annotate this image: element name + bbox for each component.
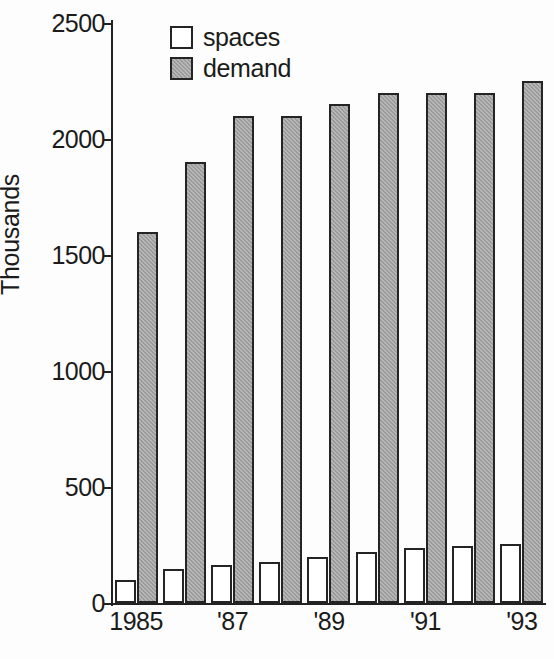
x-axis-line [111,603,546,605]
bar-demand [522,81,543,603]
bar-spaces [356,552,377,603]
x-tick-label: '89 [313,609,344,634]
y-tick-label: 2000 [51,127,105,152]
bar-group [401,23,449,603]
bar-spaces [307,557,328,603]
bar-groups [112,23,546,603]
bar-group [353,23,401,603]
bar-spaces [163,569,184,603]
bar-group [498,23,546,603]
x-tick-label: '87 [217,609,248,634]
y-tick-label: 0 [92,591,105,616]
x-tick-label: 1985 [109,609,163,634]
y-axis-title: Thousands [0,174,25,295]
bar-demand [378,93,399,603]
x-tick-label: '91 [410,609,441,634]
bar-group [305,23,353,603]
y-tick-label: 2500 [51,11,105,36]
bar-group [208,23,256,603]
bar-spaces [452,546,473,603]
bar-spaces [259,562,280,603]
bar-group [160,23,208,603]
bar-demand [329,104,350,603]
bar-demand [426,93,447,603]
bar-demand [137,232,158,603]
y-tick: 0 [112,603,113,605]
bar-demand [185,162,206,603]
y-tick-label: 500 [65,475,105,500]
bar-group [450,23,498,603]
bar-demand [233,116,254,603]
bar-demand [281,116,302,603]
y-tick-label: 1000 [51,359,105,384]
bar-spaces [404,548,425,603]
bar-group [257,23,305,603]
bar-demand [474,93,495,603]
plot-area: 05001000150020002500 [112,23,546,603]
bar-spaces [211,565,232,603]
x-tick-label: '93 [506,609,537,634]
bar-chart: spaces demand Thousands 0500100015002000… [0,0,554,659]
bar-spaces [500,544,521,603]
bar-spaces [115,580,136,603]
y-tick-label: 1500 [51,243,105,268]
x-axis-labels: 1985'87'89'91'93 [112,609,546,654]
bar-group [112,23,160,603]
